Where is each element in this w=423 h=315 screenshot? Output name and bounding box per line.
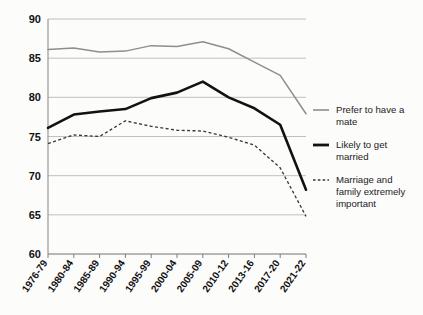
legend: Prefer to have a mate Likely to get marr… [313, 104, 406, 209]
x-tick-labels: 1976-791980-841985-891990-941995-992000-… [20, 257, 308, 294]
legend-label-important-line3: important [336, 198, 376, 209]
series-line-prefer-to-have-a-mate [48, 42, 306, 114]
legend-label-likely-line2: married [336, 151, 369, 162]
gridlines [48, 19, 306, 254]
y-tick-label: 60 [29, 248, 41, 260]
y-tick-label: 85 [29, 52, 41, 64]
y-tick-label: 70 [29, 170, 41, 182]
y-tick-label: 65 [29, 209, 41, 221]
legend-label-prefer-line1: Prefer to have a [336, 104, 405, 115]
chart-container: 60657075808590 1976-791980-841985-891990… [0, 0, 423, 315]
y-tick-label: 80 [29, 91, 41, 103]
series-line-marriage-and-family-extremely-important [48, 121, 306, 217]
legend-label-likely-line1: Likely to get [336, 139, 388, 150]
y-tick-labels: 60657075808590 [29, 13, 41, 260]
x-tick-marks [48, 254, 306, 258]
y-tick-label: 90 [29, 13, 41, 25]
x-tick-label: 2021-22 [278, 257, 308, 294]
legend-label-prefer-line2: mate [336, 116, 357, 127]
legend-label-important-line2: family extremely [336, 186, 406, 197]
legend-label-important-line1: Marriage and [336, 174, 393, 185]
line-chart: 60657075808590 1976-791980-841985-891990… [0, 0, 423, 315]
y-tick-label: 75 [29, 131, 41, 143]
